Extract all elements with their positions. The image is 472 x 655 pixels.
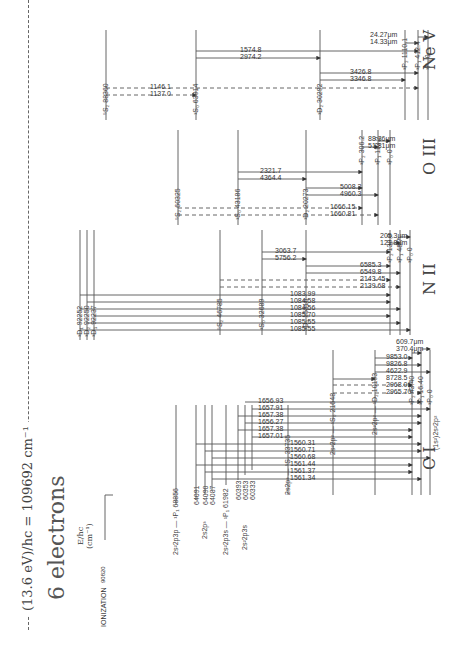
nii-wl-3D-4: 1084.58 bbox=[290, 297, 315, 304]
nii-level-1S0: ¹S₀ 32689 bbox=[258, 299, 265, 330]
ci-wl-forbidden-1: 2968.06 bbox=[386, 381, 411, 388]
ci-wl-forbidden-5: 9853.0 bbox=[386, 353, 407, 360]
oiii-ground-3P2: ³P₂ 306.2 bbox=[358, 136, 365, 165]
nii-wl-forbidden-2: 6549.8 bbox=[360, 268, 381, 275]
ci-wl-ir-0: 370.4μm bbox=[396, 345, 423, 352]
ci-config-2s2p3-upper: 2s2p³ bbox=[201, 521, 208, 539]
ci-wl-ir-1: 609.7μm bbox=[396, 338, 423, 345]
oiii-wl-forbidden-4: 4364.4 bbox=[260, 174, 281, 181]
oiii-wl-ir-1: 88.36μm bbox=[368, 135, 395, 142]
ci-ground-3P1: ³P₁ 16.40 bbox=[417, 376, 424, 405]
ci-wl-3D-0: 1561.34 bbox=[290, 474, 315, 481]
nev-level-1D2: ¹D₂ 30292 bbox=[316, 83, 323, 115]
nii-level-5S2: ⁵S₂ 46785 bbox=[216, 298, 223, 330]
ci-config-2p3p: 2s²2p3p — ¹P₁ 68856 bbox=[172, 488, 179, 555]
ci-config-1S0: 2s²2p² — ¹S₀ 21648 bbox=[329, 393, 336, 455]
ci-config-ground: (1s²)2s²2p² bbox=[432, 416, 439, 450]
nev-wl-forbidden-4: 2974.2 bbox=[240, 53, 261, 60]
nii-level-3D2: ³D₂ 92250 bbox=[83, 305, 90, 337]
ci-wl-forbidden-3: 4622.9 bbox=[386, 367, 407, 374]
ci-wl-3P-0: 1657.01 bbox=[258, 432, 283, 439]
ci-level-3D1: 64091 bbox=[193, 486, 200, 505]
nev-wl-ir-1: 24.27μm bbox=[370, 31, 397, 38]
nii-wl-forbidden-1: 2143.45 bbox=[360, 275, 385, 282]
nii-wl-3D-5: 1083.99 bbox=[290, 290, 315, 297]
ci-wl-3P-4: 1657.91 bbox=[258, 404, 283, 411]
nii-ground-3P0: ³P₀ 0 bbox=[406, 247, 413, 263]
ci-level-3P1: 60353 bbox=[242, 481, 249, 500]
nev-ground-3P1: ³P₁ 412.4 bbox=[414, 41, 421, 70]
grotrian-diagram: (13.6 eV)/hc = 109692 cm⁻¹ 6 electrons E… bbox=[0, 0, 472, 655]
ci-wl-3D-5: 1560.31 bbox=[290, 439, 315, 446]
nii-wl-ir-0: 121.8μm bbox=[380, 239, 407, 246]
ci-wl-forbidden-2: 8728.5 bbox=[386, 374, 407, 381]
ci-wl-forbidden-4: 9826.8 bbox=[386, 360, 407, 367]
ci-wl-3P-1: 1657.38 bbox=[258, 425, 283, 432]
ci-wl-3D-4: 1560.71 bbox=[290, 446, 315, 453]
oiii-level-1D2: ¹D₂ 20273 bbox=[302, 188, 309, 220]
nev-wl-forbidden-5: 1574.8 bbox=[240, 46, 261, 53]
oiii-level-5S2: ⁵S₂ 60325 bbox=[174, 188, 181, 220]
oiii-ground-3P0: ³P₀ 0 bbox=[386, 149, 393, 165]
ci-level-3P2: 60393 bbox=[235, 481, 242, 500]
ci-level-3D2: 64090 bbox=[202, 486, 209, 505]
ci-wl-3P-5: 1656.93 bbox=[258, 397, 283, 404]
nev-level-1S0: ¹S₀ 63914 bbox=[192, 84, 199, 115]
nii-wl-forbidden-4: 5756.2 bbox=[275, 254, 296, 261]
nii-wl-forbidden-3: 6585.3 bbox=[360, 261, 381, 268]
nev-ground-3P2: ³P₂ 1110.1 bbox=[401, 38, 408, 70]
nev-ground-3P0: ³P₀ 0 bbox=[424, 54, 431, 70]
nii-wl-forbidden-5: 3063.7 bbox=[275, 247, 296, 254]
ci-wl-3P-2: 1656.27 bbox=[258, 418, 283, 425]
ci-config-2p3s-triplet: 2s²2p3s bbox=[241, 525, 248, 550]
oiii-wl-forbidden-3: 5008.2 bbox=[340, 183, 361, 190]
nev-level-5S2: ⁵S₂ 88360 bbox=[102, 83, 109, 115]
nev-wl-forbidden-3: 3426.8 bbox=[350, 68, 371, 75]
ci-config-1D2: 2s²2p² — ¹D₂ 10193 bbox=[371, 373, 378, 435]
ci-level-3P0: 60333 bbox=[249, 481, 256, 500]
oiii-wl-forbidden-5: 2321.7 bbox=[260, 167, 281, 174]
nii-level-3D3: ³D₃ 92237 bbox=[90, 305, 97, 337]
ci-config-2p3s-single: 2s²2p3s — ¹P₁ 61982 bbox=[222, 488, 229, 555]
nii-wl-forbidden-0: 2139.68 bbox=[360, 282, 385, 289]
nev-wl-forbidden-0: 1137.0 bbox=[150, 90, 171, 97]
nev-wl-forbidden-1: 1146.1 bbox=[150, 83, 171, 90]
nev-wl-forbidden-2: 3346.8 bbox=[350, 75, 371, 82]
ci-wl-forbidden-0: 2965.70 bbox=[386, 388, 411, 395]
nev-wl-ir-0: 14.33μm bbox=[370, 38, 397, 45]
nii-wl-ir-1: 205.3μm bbox=[380, 232, 407, 239]
nii-level-3D1: ³D₁ 92252 bbox=[76, 306, 83, 337]
nii-wl-3D-1: 1085.55 bbox=[290, 318, 315, 325]
oiii-wl-forbidden-1: 1666.15 bbox=[330, 203, 355, 210]
oiii-wl-forbidden-2: 4960.3 bbox=[340, 190, 361, 197]
nii-wl-3D-0: 1085.55 bbox=[290, 325, 315, 332]
nii-wl-3D-2: 1085.70 bbox=[290, 311, 315, 318]
oiii-wl-forbidden-0: 1660.81 bbox=[330, 210, 355, 217]
transition-lines bbox=[0, 0, 472, 655]
ci-wl-3D-2: 1561.44 bbox=[290, 460, 315, 467]
nii-wl-3D-3: 1084.56 bbox=[290, 304, 315, 311]
oiii-wl-ir-0: 51.81μm bbox=[368, 142, 395, 149]
ci-level-3D3: 64087 bbox=[209, 486, 216, 505]
ci-wl-3D-3: 1560.68 bbox=[290, 453, 315, 460]
ci-ground-3P0: ³P₀ 0 bbox=[426, 389, 433, 405]
ci-wl-3D-1: 1561.37 bbox=[290, 467, 315, 474]
oiii-level-1S0: ¹S₀ 43186 bbox=[234, 189, 241, 220]
ci-wl-3P-3: 1657.38 bbox=[258, 411, 283, 418]
